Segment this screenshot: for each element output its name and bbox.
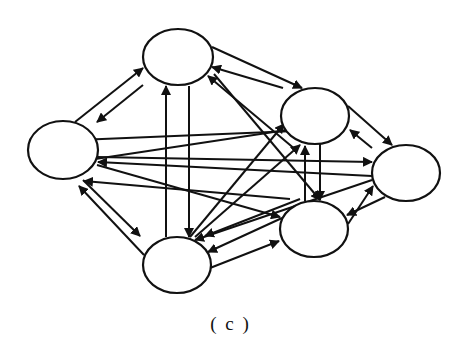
node-f (143, 237, 211, 293)
arrow-edge (75, 68, 143, 122)
node-e (280, 201, 348, 257)
arrow-edge (348, 106, 392, 145)
arrow-edge (210, 241, 279, 268)
arrow-edge (97, 157, 372, 162)
arrow-edge (212, 47, 302, 88)
figure-caption: ( c ) (0, 313, 461, 335)
arrow-edge (190, 124, 284, 237)
arrow-edge (97, 85, 143, 122)
node-a (143, 29, 213, 85)
node-group (28, 29, 440, 293)
arrow-edge (350, 130, 372, 148)
node-b (28, 121, 98, 179)
node-d (372, 145, 440, 201)
node-c (281, 88, 349, 144)
arrow-edge (83, 180, 140, 236)
arrow-edge (98, 162, 372, 176)
arrow-edge (84, 181, 290, 199)
arrow-edge (79, 186, 144, 255)
network-diagram (0, 0, 461, 359)
arrow-edge (347, 197, 385, 215)
